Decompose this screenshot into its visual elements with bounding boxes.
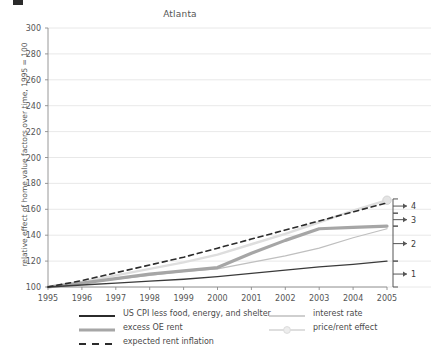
chart-plot-area: 100120140160180200220240260280300 199519… xyxy=(0,0,431,306)
svg-text:1997: 1997 xyxy=(106,294,126,303)
axes xyxy=(45,28,387,290)
chart-figure: Atlanta relative effect of home value fa… xyxy=(0,0,431,350)
svg-text:2005: 2005 xyxy=(377,294,397,303)
legend-swatch-icon xyxy=(268,307,306,319)
bracket-label: 2 xyxy=(411,240,416,249)
svg-text:1995: 1995 xyxy=(38,294,58,303)
svg-text:160: 160 xyxy=(26,205,41,214)
legend-item[interactable]: excess OE rent xyxy=(78,320,271,334)
series-line xyxy=(48,261,387,287)
svg-text:2004: 2004 xyxy=(343,294,363,303)
x-tick-labels: 1995199619971998199920002001200220032004… xyxy=(38,294,397,303)
y-tick-labels: 100120140160180200220240260280300 xyxy=(26,24,41,292)
bracket-label: 1 xyxy=(411,270,416,279)
svg-text:280: 280 xyxy=(26,50,41,59)
legend-item[interactable]: US CPI less food, energy, and shelter xyxy=(78,306,271,320)
svg-text:300: 300 xyxy=(26,24,41,33)
series-line xyxy=(48,200,387,287)
legend-swatch-icon xyxy=(268,321,306,333)
bracket-arrowhead xyxy=(403,203,407,208)
legend-swatch-icon xyxy=(78,307,116,319)
legend-label: excess OE rent xyxy=(123,323,183,332)
legend-label: interest rate xyxy=(313,309,362,318)
svg-text:220: 220 xyxy=(26,128,41,137)
legend-item[interactable]: interest rate xyxy=(268,306,377,320)
svg-text:240: 240 xyxy=(26,102,41,111)
chart-legend: US CPI less food, energy, and shelterexc… xyxy=(0,306,431,350)
bracket-arrowhead xyxy=(403,271,407,276)
legend-label: US CPI less food, energy, and shelter xyxy=(123,309,271,318)
svg-text:180: 180 xyxy=(26,179,41,188)
legend-swatch-icon xyxy=(78,335,116,347)
legend-column-left: US CPI less food, energy, and shelterexc… xyxy=(78,306,271,348)
svg-text:100: 100 xyxy=(26,283,41,292)
svg-text:1998: 1998 xyxy=(140,294,160,303)
bracket-arrowhead xyxy=(403,217,407,222)
svg-text:1996: 1996 xyxy=(72,294,92,303)
legend-column-right: interest rateprice/rent effect xyxy=(268,306,377,334)
svg-text:2001: 2001 xyxy=(241,294,261,303)
svg-text:1999: 1999 xyxy=(173,294,193,303)
legend-label: expected rent inflation xyxy=(123,337,214,346)
legend-label: price/rent effect xyxy=(313,323,377,332)
legend-item[interactable]: expected rent inflation xyxy=(78,334,271,348)
legend-swatch-icon xyxy=(78,321,116,333)
svg-text:200: 200 xyxy=(26,154,41,163)
bracket-label: 3 xyxy=(411,216,416,225)
svg-text:140: 140 xyxy=(26,231,41,240)
svg-text:120: 120 xyxy=(26,257,41,266)
svg-text:2000: 2000 xyxy=(207,294,227,303)
bracket-annotations: 1234 xyxy=(393,199,416,287)
bracket-arrowhead xyxy=(403,241,407,246)
bracket-label: 4 xyxy=(411,202,416,211)
svg-text:260: 260 xyxy=(26,76,41,85)
svg-text:2003: 2003 xyxy=(309,294,329,303)
legend-item[interactable]: price/rent effect xyxy=(268,320,377,334)
svg-text:2002: 2002 xyxy=(275,294,295,303)
